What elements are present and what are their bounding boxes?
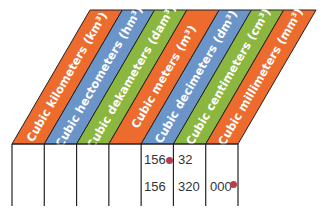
value-digits: 320	[178, 180, 200, 193]
value-digits: 156	[144, 180, 166, 193]
decimal-point-marker	[166, 157, 173, 164]
value-digits: 000	[210, 180, 232, 193]
decimal-point-marker	[230, 181, 237, 188]
value-digits: 156	[144, 153, 166, 166]
value-digits: 32	[178, 153, 192, 166]
unit-conversion-diagram: Cubic kilometers (km³)Cubic hectometers …	[0, 0, 326, 216]
